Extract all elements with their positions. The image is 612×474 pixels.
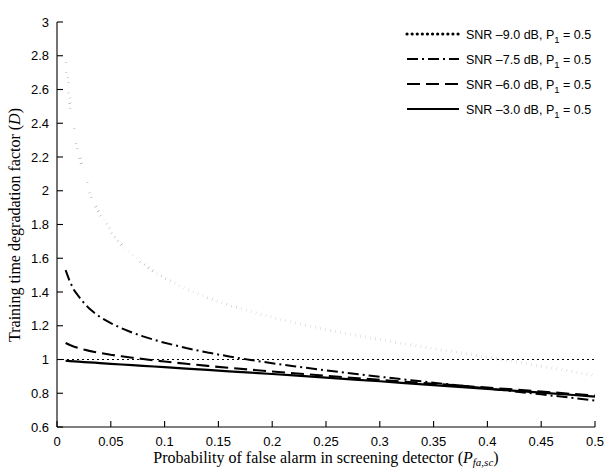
y-tick-label: 1 bbox=[42, 352, 49, 367]
legend-label-1: SNR –7.5 dB, P1 = 0.5 bbox=[466, 53, 591, 70]
x-tick-label: 0.1 bbox=[156, 434, 174, 449]
legend: SNR –9.0 dB, P1 = 0.5SNR –7.5 dB, P1 = 0… bbox=[407, 28, 591, 120]
y-tick-label: 2.4 bbox=[31, 116, 49, 131]
x-tick-label: 0.5 bbox=[586, 434, 604, 449]
legend-label-2: SNR –6.0 dB, P1 = 0.5 bbox=[466, 78, 591, 95]
x-axis-ticks bbox=[57, 421, 595, 427]
y-tick-label: 1.6 bbox=[31, 251, 49, 266]
y-tick-label: 2.6 bbox=[31, 82, 49, 97]
y-tick-label: 3 bbox=[42, 15, 49, 30]
curve-series-2 bbox=[66, 343, 595, 396]
y-tick-label: 2.8 bbox=[31, 48, 49, 63]
x-tick-label: 0.2 bbox=[263, 434, 281, 449]
y-tick-label: 0.8 bbox=[31, 386, 49, 401]
x-tick-label: 0.25 bbox=[313, 434, 338, 449]
y-axis-tick-labels: 0.60.811.21.41.61.822.22.42.62.83 bbox=[31, 15, 49, 435]
x-tick-label: 0.05 bbox=[98, 434, 123, 449]
x-tick-label: 0.35 bbox=[421, 434, 446, 449]
y-axis-title: Training time degradation factor (D) bbox=[6, 108, 24, 342]
x-axis-title: Probability of false alarm in screening … bbox=[153, 449, 498, 468]
x-tick-label: 0.45 bbox=[529, 434, 554, 449]
chart-figure: 0.60.811.21.41.61.822.22.42.62.83 00.050… bbox=[0, 0, 612, 474]
x-tick-label: 0.15 bbox=[206, 434, 231, 449]
y-tick-label: 0.6 bbox=[31, 420, 49, 435]
x-axis-tick-labels: 00.050.10.150.20.250.30.350.40.450.5 bbox=[53, 434, 604, 449]
chart-canvas: 0.60.811.21.41.61.822.22.42.62.83 00.050… bbox=[0, 0, 612, 474]
y-tick-label: 1.8 bbox=[31, 217, 49, 232]
legend-label-3: SNR –3.0 dB, P1 = 0.5 bbox=[466, 103, 591, 120]
legend-label-0: SNR –9.0 dB, P1 = 0.5 bbox=[466, 28, 591, 45]
y-tick-label: 1.2 bbox=[31, 318, 49, 333]
y-tick-label: 2 bbox=[42, 183, 49, 198]
x-tick-label: 0.4 bbox=[478, 434, 496, 449]
curve-series-3 bbox=[66, 361, 595, 397]
y-tick-label: 2.2 bbox=[31, 150, 49, 165]
y-tick-label: 1.4 bbox=[31, 285, 49, 300]
y-axis-ticks bbox=[57, 22, 63, 427]
curve-series-1 bbox=[66, 270, 595, 400]
x-tick-label: 0.3 bbox=[371, 434, 389, 449]
x-tick-label: 0 bbox=[53, 434, 60, 449]
